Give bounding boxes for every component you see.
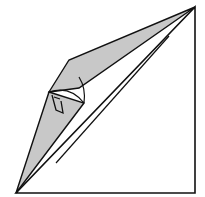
origami-diagram <box>0 0 205 197</box>
base-triangle <box>16 7 195 193</box>
